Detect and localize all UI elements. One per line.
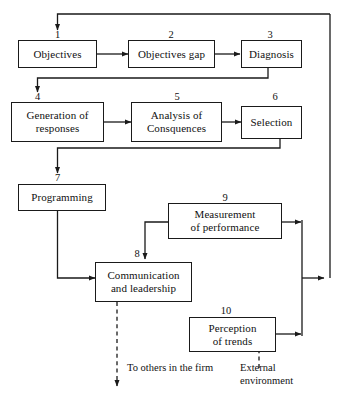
node-communication-and-leadership[interactable]: Communication and leadership <box>95 262 192 302</box>
node-measurement-of-performance[interactable]: Measurement of performance <box>168 203 282 239</box>
node-number-4: 4 <box>30 91 46 102</box>
node-communication-and-leadership-label: Communication and leadership <box>107 269 179 295</box>
node-number-3: 3 <box>262 29 278 40</box>
node-selection[interactable]: Selection <box>241 106 302 139</box>
node-analysis-of-consequences-label: Analysis of Consquences <box>147 109 206 135</box>
edge-9-to-8 <box>145 222 168 259</box>
node-diagnosis[interactable]: Diagnosis <box>241 40 302 68</box>
node-number-10: 10 <box>218 305 234 316</box>
node-perception-of-trends-label: Perception of trends <box>208 322 256 348</box>
node-objectives-gap[interactable]: Objectives gap <box>128 40 215 68</box>
node-perception-of-trends[interactable]: Perception of trends <box>189 317 276 352</box>
node-diagnosis-label: Diagnosis <box>249 48 294 61</box>
node-number-6: 6 <box>267 91 283 102</box>
node-generation-of-responses[interactable]: Generation of responses <box>11 102 104 142</box>
edge-3-to-4 <box>38 68 269 92</box>
node-number-9: 9 <box>217 192 233 203</box>
node-objectives-gap-label: Objectives gap <box>138 48 205 61</box>
node-measurement-of-performance-label: Measurement of performance <box>191 208 260 234</box>
edge-6-to-7 <box>58 139 281 173</box>
flowchart-diagram: 1 Objectives 2 Objectives gap 3 Diagnosi… <box>0 0 345 405</box>
node-objectives[interactable]: Objectives <box>18 40 97 68</box>
node-programming-label: Programming <box>31 191 93 204</box>
label-to-others-in-the-firm: To others in the firm <box>127 362 213 375</box>
node-number-7: 7 <box>50 172 66 183</box>
edge-7-to-8 <box>58 211 96 278</box>
node-number-5: 5 <box>169 91 185 102</box>
node-number-8: 8 <box>129 248 145 259</box>
edge-return-to-objectives <box>58 14 331 30</box>
node-number-1: 1 <box>50 29 66 40</box>
node-number-2: 2 <box>163 29 179 40</box>
node-analysis-of-consequences[interactable]: Analysis of Consquences <box>131 102 222 142</box>
node-programming[interactable]: Programming <box>18 184 106 211</box>
node-objectives-label: Objectives <box>33 48 81 61</box>
label-external-environment: External environment <box>240 362 293 387</box>
node-selection-label: Selection <box>251 116 293 129</box>
node-generation-of-responses-label: Generation of responses <box>26 109 88 135</box>
